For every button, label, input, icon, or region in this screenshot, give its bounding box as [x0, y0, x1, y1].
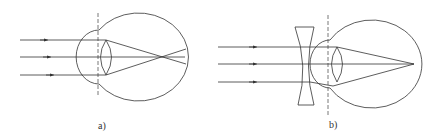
crystalline-lens	[101, 40, 112, 75]
panel-a-myopic-eye	[20, 13, 188, 101]
crystalline-lens	[332, 47, 343, 82]
panel-b-corrected-eye	[218, 15, 422, 115]
panel-a-label: a)	[98, 120, 106, 131]
refracted-ray-top	[106, 40, 186, 64]
optics-diagram	[0, 0, 431, 140]
refracted-ray-bottom	[106, 49, 186, 75]
refracted-ray-bottom	[333, 64, 414, 86]
panel-b-label: b)	[329, 119, 337, 130]
refracted-ray-top	[337, 47, 414, 64]
concave-corrective-lens	[295, 27, 314, 105]
